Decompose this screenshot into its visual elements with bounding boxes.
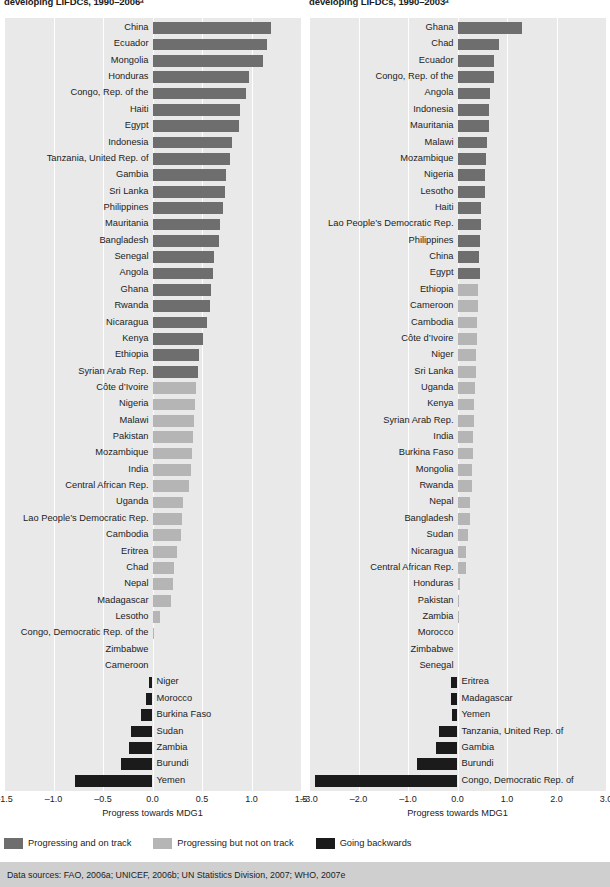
- bar-row: Sudan: [4, 724, 301, 740]
- bar: [458, 464, 473, 476]
- bar-row: Cameroon: [4, 658, 301, 674]
- x-tick-right-5: 2.0: [550, 794, 563, 804]
- bar: [458, 300, 478, 312]
- bar: [153, 137, 232, 149]
- bar: [153, 333, 203, 345]
- bar: [121, 758, 153, 770]
- plot-area-left: ChinaEcuadorMongoliaHondurasCongo, Rep. …: [4, 18, 301, 791]
- bar-row: Burundi: [4, 756, 301, 772]
- bar: [153, 268, 213, 280]
- bar-rows-right: GhanaChadEcuadorCongo, Rep. of theAngola…: [309, 18, 606, 791]
- bar-row: Nicaragua: [4, 315, 301, 331]
- bar: [153, 448, 193, 460]
- bar-category-label: Lao People’s Democratic Rep.: [23, 510, 148, 526]
- legend: Progressing and on trackProgressing but …: [4, 833, 606, 853]
- bar-category-label: Zimbabwe: [411, 641, 454, 657]
- bar: [153, 546, 178, 558]
- bar-row: Mozambique: [309, 151, 606, 167]
- bar-category-label: Burundi: [157, 755, 189, 771]
- x-axis-label-left: Progress towards MDG1: [4, 808, 301, 818]
- bar: [153, 562, 175, 574]
- bar-category-label: Ethiopia: [115, 346, 149, 362]
- bar-category-label: Central African Rep.: [65, 477, 148, 493]
- bar-row: Uganda: [309, 380, 606, 396]
- bar: [458, 611, 459, 623]
- bar-row: Senegal: [4, 249, 301, 265]
- bar: [458, 546, 467, 558]
- bar-category-label: Mauritania: [105, 215, 148, 231]
- legend-swatch-offtrack: [153, 838, 172, 849]
- bar-category-label: Indonesia: [108, 134, 148, 150]
- bar-row: Burundi: [309, 756, 606, 772]
- x-tick-right-0: –3.0: [300, 794, 318, 804]
- bar: [458, 382, 476, 394]
- bar: [458, 268, 481, 280]
- bar: [458, 431, 474, 443]
- bar-row: Gambia: [309, 740, 606, 756]
- bar: [458, 251, 480, 263]
- bar-row: Yemen: [4, 773, 301, 789]
- bar: [458, 399, 475, 411]
- bar-row: Nicaragua: [309, 544, 606, 560]
- legend-label-ontrack: Progressing and on track: [28, 838, 131, 848]
- bar-row: Bangladesh: [309, 511, 606, 527]
- bar: [458, 366, 476, 378]
- bar-row: Nigeria: [4, 396, 301, 412]
- legend-swatch-back: [316, 838, 335, 849]
- bar-category-label: Cambodia: [106, 526, 148, 542]
- bar-category-label: Uganda: [421, 379, 454, 395]
- bar-category-label: Honduras: [108, 68, 148, 84]
- bar-row: Rwanda: [309, 478, 606, 494]
- bar: [458, 595, 460, 607]
- bar: [153, 120, 239, 132]
- bar: [458, 219, 481, 231]
- bar-row: Chad: [4, 560, 301, 576]
- bar: [458, 153, 487, 165]
- bar-row: Zambia: [4, 740, 301, 756]
- bar: [458, 333, 478, 345]
- chart-title-right: developing LIFDCs, 1990–2003ᵃ: [309, 0, 449, 7]
- bar-category-label: Niger: [431, 346, 453, 362]
- bar-row: Côte d’Ivoire: [4, 380, 301, 396]
- bar-row: Morocco: [4, 691, 301, 707]
- bar-category-label: Pakistan: [113, 428, 149, 444]
- bar-category-label: Yemen: [157, 772, 186, 788]
- bar-category-label: Philippines: [104, 199, 149, 215]
- bar-category-label: Nepal: [429, 493, 453, 509]
- bar-row: Angola: [309, 85, 606, 101]
- bar-row: Cambodia: [4, 527, 301, 543]
- bar-row: Zimbabwe: [309, 642, 606, 658]
- bar: [458, 137, 487, 149]
- bar-category-label: Haiti: [435, 199, 454, 215]
- bar-row: Egypt: [309, 265, 606, 281]
- bar-row: Pakistan: [4, 429, 301, 445]
- bar-category-label: Rwanda: [419, 477, 453, 493]
- bar-category-label: Gambia: [116, 166, 149, 182]
- bar-category-label: Lesotho: [420, 183, 453, 199]
- bar: [153, 399, 196, 411]
- bar-category-label: Ecuador: [419, 52, 454, 68]
- bar-row: Eritrea: [4, 544, 301, 560]
- bar-category-label: Morocco: [157, 690, 193, 706]
- bar-row: Kenya: [4, 331, 301, 347]
- figure-root: developing LIFDCs, 1990–2006ᵃ developing…: [0, 0, 610, 887]
- bar: [458, 88, 490, 100]
- x-tick-left-3: 0.0: [146, 794, 159, 804]
- bar-row: Mongolia: [4, 53, 301, 69]
- bar-category-label: Malawi: [120, 412, 149, 428]
- bar-row: India: [4, 462, 301, 478]
- bar-category-label: China: [429, 248, 453, 264]
- bar-row: Mauritania: [309, 118, 606, 134]
- bar: [451, 693, 458, 705]
- bar-category-label: China: [124, 19, 148, 35]
- bar-category-label: Pakistan: [418, 592, 454, 608]
- bar: [458, 235, 481, 247]
- bar: [153, 71, 249, 83]
- bar-row: Lesotho: [309, 184, 606, 200]
- bar-category-label: Congo, Rep. of the: [70, 84, 148, 100]
- bar-category-label: Ethiopia: [420, 281, 454, 297]
- bar: [458, 529, 469, 541]
- bar-category-label: Gambia: [462, 739, 495, 755]
- bar-row: Congo, Democratic Rep. of: [309, 773, 606, 789]
- bar-row: Rwanda: [4, 298, 301, 314]
